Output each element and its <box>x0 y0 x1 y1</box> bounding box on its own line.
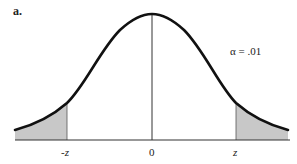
normal-curve-diagram <box>0 0 297 164</box>
tick-label-z: z <box>233 147 237 158</box>
alpha-annotation: α = .01 <box>230 46 261 57</box>
tick-label-zero: 0 <box>149 147 155 158</box>
tick-label-neg-z: -z <box>61 147 69 158</box>
